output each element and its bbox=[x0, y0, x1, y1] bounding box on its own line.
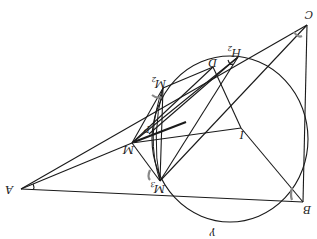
label-H2: H 2 bbox=[227, 44, 242, 59]
svg-text:I: I bbox=[239, 128, 245, 141]
label-I: I bbox=[239, 128, 245, 141]
geometry-diagram: A B C D I M M 2 M 3 H 2 P γ bbox=[0, 0, 317, 239]
circle-gamma bbox=[152, 56, 308, 222]
svg-text:2: 2 bbox=[151, 75, 157, 83]
label-M2: M 2 bbox=[151, 75, 167, 90]
angle-mark-B bbox=[291, 188, 292, 200]
label-D: D bbox=[208, 56, 218, 69]
label-gamma: γ bbox=[209, 227, 216, 239]
line-B-I bbox=[241, 128, 303, 202]
svg-text:B: B bbox=[303, 203, 312, 216]
angle-mark-A bbox=[33, 184, 34, 189]
svg-text:M: M bbox=[122, 143, 135, 156]
line-H2-M3 bbox=[160, 57, 238, 181]
svg-text:γ: γ bbox=[209, 227, 216, 239]
label-M: M bbox=[122, 143, 135, 156]
label-P: P bbox=[143, 124, 151, 134]
label-C: C bbox=[304, 8, 313, 21]
svg-text:D: D bbox=[208, 56, 218, 69]
svg-text:2: 2 bbox=[227, 44, 233, 52]
label-B: B bbox=[303, 203, 312, 216]
line-A-C bbox=[21, 25, 307, 189]
svg-text:P: P bbox=[143, 124, 151, 134]
svg-text:C: C bbox=[304, 8, 313, 21]
svg-text:A: A bbox=[5, 183, 14, 196]
line-B-C bbox=[303, 25, 307, 202]
line-A-M bbox=[21, 143, 132, 189]
label-A: A bbox=[5, 183, 14, 196]
line-I-D bbox=[213, 67, 241, 128]
svg-text:3: 3 bbox=[150, 180, 155, 188]
angle-mark-M3 bbox=[149, 170, 151, 180]
label-M3: M 3 bbox=[150, 180, 166, 195]
